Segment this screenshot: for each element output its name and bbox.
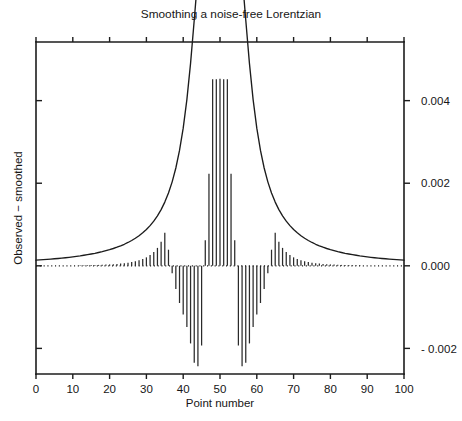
- x-axis-tick-label: 20: [103, 383, 116, 395]
- chart-title: Smoothing a noise-free Lorentzian: [141, 7, 321, 21]
- x-axis-tick-label: 100: [394, 383, 413, 395]
- x-axis-tick-label: 90: [361, 383, 374, 395]
- x-axis-title: Point number: [186, 397, 255, 409]
- y-axis-tick-labels: - 0.0020.0000.0020.004: [421, 95, 457, 355]
- x-axis-tick-label: 0: [33, 383, 39, 395]
- x-axis-tick-label: 60: [250, 383, 263, 395]
- x-axis-tick-labels: 0102030405060708090100: [33, 383, 414, 395]
- x-axis-tick-label: 40: [177, 383, 190, 395]
- chart-figure: Smoothing a noise-free Lorentzian Observ…: [0, 0, 462, 421]
- x-axis-tick-label: 30: [140, 383, 153, 395]
- chart-canvas: Smoothing a noise-free Lorentzian Observ…: [0, 0, 462, 421]
- y-axis-tick-label: 0.004: [421, 95, 450, 107]
- y-axis-tick-label: 0.000: [421, 260, 450, 272]
- residual-stem-series: [80, 79, 360, 366]
- x-axis-tick-label: 10: [66, 383, 79, 395]
- y-axis-tick-label: - 0.002: [421, 343, 457, 355]
- y-axis-tick-label: 0.002: [421, 177, 450, 189]
- y-axis-title: Observed − smoothed: [12, 151, 24, 264]
- y-axis-ticks: [36, 101, 410, 349]
- x-axis-tick-label: 80: [324, 383, 337, 395]
- x-axis-tick-label: 70: [287, 383, 300, 395]
- x-axis-tick-label: 50: [214, 383, 227, 395]
